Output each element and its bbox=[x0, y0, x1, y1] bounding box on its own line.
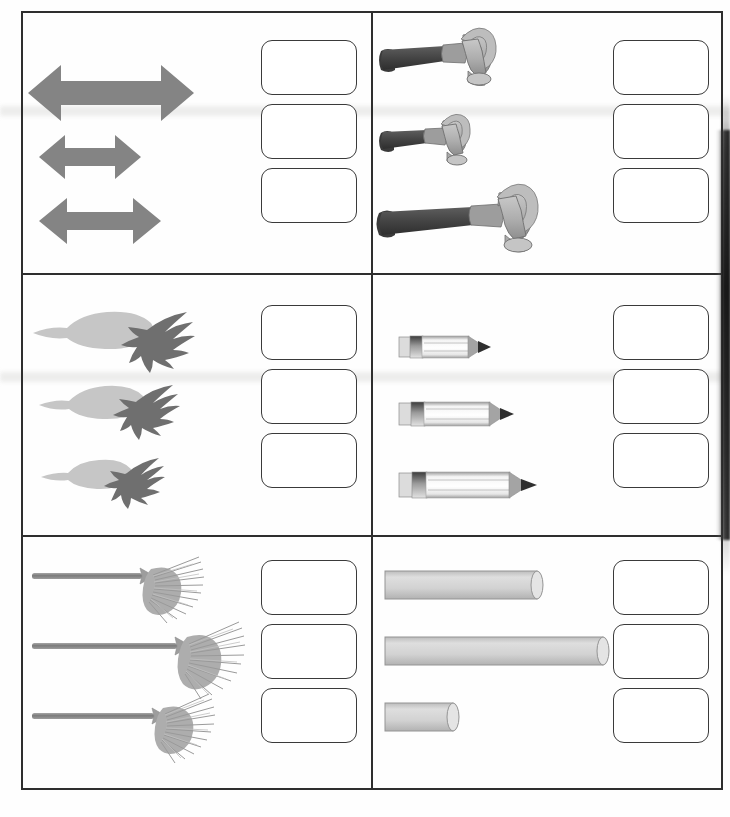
cell-carrots bbox=[23, 275, 373, 537]
cell-brooms bbox=[23, 537, 373, 788]
pencil-icon bbox=[399, 336, 491, 358]
cell-cylinders bbox=[373, 537, 723, 788]
answer-box[interactable] bbox=[261, 624, 357, 679]
pencil-icon bbox=[399, 402, 514, 426]
pencil-icon bbox=[399, 472, 537, 498]
arrow-double-headed-icon bbox=[28, 65, 194, 121]
cylinder-icon bbox=[385, 637, 609, 665]
answer-box[interactable] bbox=[613, 168, 709, 223]
answer-box[interactable] bbox=[261, 40, 357, 95]
scan-edge-artifact bbox=[722, 95, 730, 575]
arrows-svg bbox=[23, 13, 273, 275]
answer-box[interactable] bbox=[613, 688, 709, 743]
hammers-svg bbox=[373, 13, 633, 275]
answer-box[interactable] bbox=[613, 40, 709, 95]
hammer-icon bbox=[377, 184, 539, 252]
answer-boxes-carrots bbox=[261, 275, 357, 537]
cylinders-svg bbox=[373, 537, 633, 788]
broom-icon bbox=[32, 557, 204, 623]
brooms-artwork bbox=[23, 537, 273, 788]
arrow-double-headed-icon bbox=[39, 135, 141, 179]
cylinder-icon bbox=[385, 571, 543, 599]
answer-boxes-arrows bbox=[261, 13, 357, 275]
answer-box[interactable] bbox=[261, 688, 357, 743]
answer-box[interactable] bbox=[261, 104, 357, 159]
answer-box[interactable] bbox=[613, 560, 709, 615]
answer-box[interactable] bbox=[261, 433, 357, 488]
broom-icon bbox=[32, 622, 245, 699]
answer-box[interactable] bbox=[613, 624, 709, 679]
answer-boxes-cylinders bbox=[613, 537, 709, 788]
broom-icon bbox=[32, 694, 215, 763]
cell-arrows bbox=[23, 13, 373, 275]
hammers-artwork bbox=[373, 13, 633, 273]
carrots-artwork bbox=[23, 275, 273, 535]
carrot-icon bbox=[39, 385, 180, 440]
carrots-svg bbox=[23, 275, 273, 537]
answer-box[interactable] bbox=[613, 305, 709, 360]
arrow-double-headed-icon bbox=[39, 198, 161, 244]
answer-box[interactable] bbox=[613, 104, 709, 159]
worksheet-grid bbox=[21, 11, 723, 790]
answer-box[interactable] bbox=[613, 369, 709, 424]
answer-box[interactable] bbox=[261, 560, 357, 615]
answer-boxes-brooms bbox=[261, 537, 357, 788]
answer-box[interactable] bbox=[261, 305, 357, 360]
answer-box[interactable] bbox=[613, 433, 709, 488]
carrot-icon bbox=[41, 458, 165, 509]
pencils-svg bbox=[373, 275, 633, 537]
cylinders-artwork bbox=[373, 537, 633, 788]
cylinder-icon bbox=[385, 703, 459, 731]
pencils-artwork bbox=[373, 275, 633, 535]
carrot-icon bbox=[33, 312, 195, 373]
brooms-svg bbox=[23, 537, 273, 788]
worksheet-page bbox=[0, 0, 730, 817]
answer-box[interactable] bbox=[261, 168, 357, 223]
hammer-icon bbox=[379, 114, 470, 165]
cell-hammers bbox=[373, 13, 723, 275]
cell-pencils bbox=[373, 275, 723, 537]
answer-boxes-pencils bbox=[613, 275, 709, 537]
arrows-artwork bbox=[23, 13, 273, 273]
answer-box[interactable] bbox=[261, 369, 357, 424]
hammer-icon bbox=[379, 28, 496, 85]
answer-boxes-hammers bbox=[613, 13, 709, 275]
